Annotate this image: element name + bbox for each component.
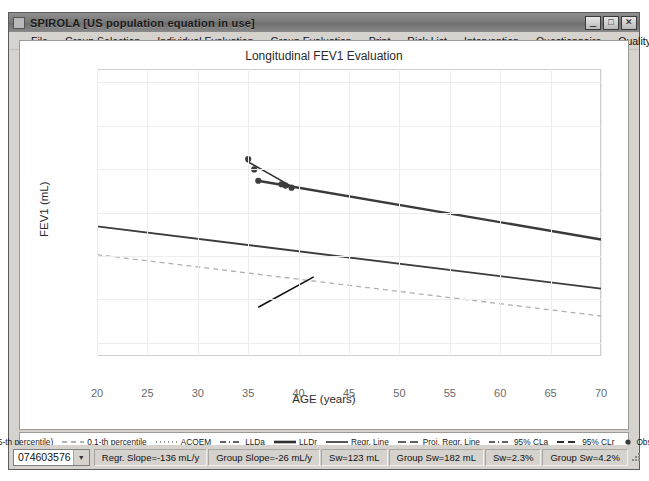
status-bar: 074603576 ▼ Regr. Slope=-136 mL/yGroup S… bbox=[9, 445, 639, 469]
x-tick-label: 65 bbox=[544, 387, 556, 399]
window-title: SPIROLA [US population equation in use] bbox=[30, 17, 255, 29]
maximize-icon: □ bbox=[604, 17, 618, 29]
title-bar[interactable]: SPIROLA [US population equation in use] … bbox=[9, 13, 639, 32]
observed-data-point bbox=[288, 185, 294, 191]
gridline-horizontal bbox=[97, 343, 601, 344]
chart-panel: Longitudinal FEV1 Evaluation FEV1 (mL) A… bbox=[19, 40, 629, 430]
x-tick-label: 70 bbox=[595, 387, 607, 399]
subject-id-combobox[interactable]: 074603576 ▼ bbox=[13, 449, 90, 466]
status-cell: Group Sw=182 mL bbox=[389, 449, 484, 466]
status-cell: Regr. Slope=-136 mL/y bbox=[94, 449, 207, 466]
x-tick-label: 55 bbox=[444, 387, 456, 399]
resize-grip[interactable] bbox=[629, 450, 635, 464]
chart-title: Longitudinal FEV1 Evaluation bbox=[20, 49, 628, 63]
grip-dot bbox=[635, 456, 637, 458]
subject-id-value: 074603576 bbox=[14, 451, 73, 463]
gridline-horizontal bbox=[97, 169, 601, 170]
gridline-vertical bbox=[601, 69, 602, 356]
x-tick-label: 35 bbox=[242, 387, 254, 399]
y-axis-label: FEV1 (mL) bbox=[38, 181, 50, 237]
gridline-horizontal bbox=[97, 299, 601, 300]
x-tick-label: 25 bbox=[141, 387, 153, 399]
status-cells: Regr. Slope=-136 mL/yGroup Slope=-26 mL/… bbox=[94, 449, 629, 466]
gridline-horizontal bbox=[97, 126, 601, 127]
observed-data-point bbox=[282, 182, 288, 188]
minimize-icon: _ bbox=[586, 17, 600, 29]
x-axis-label: AGE (years) bbox=[20, 393, 628, 405]
app-icon bbox=[13, 17, 25, 29]
x-tick-label: 50 bbox=[393, 387, 405, 399]
status-cell: Sw=2.3% bbox=[485, 449, 541, 466]
application-window: SPIROLA [US population equation in use] … bbox=[8, 12, 640, 470]
observed-data-point bbox=[255, 178, 261, 184]
x-tick-label: 60 bbox=[494, 387, 506, 399]
gridline-horizontal bbox=[97, 256, 601, 257]
close-button[interactable]: ✕ bbox=[621, 16, 637, 30]
gridline-horizontal bbox=[97, 213, 601, 214]
chevron-down-icon[interactable]: ▼ bbox=[73, 450, 89, 465]
minimize-button[interactable]: _ bbox=[585, 16, 601, 30]
status-cell: Sw=123 mL bbox=[321, 449, 387, 466]
status-cell: Group Slope=-26 mL/y bbox=[208, 449, 320, 466]
x-tick-label: 30 bbox=[192, 387, 204, 399]
x-tick-label: 45 bbox=[343, 387, 355, 399]
series-line bbox=[258, 277, 313, 307]
grip-dot bbox=[635, 459, 637, 461]
grip-dot bbox=[638, 453, 640, 455]
maximize-button[interactable]: □ bbox=[603, 16, 619, 30]
gridline-horizontal bbox=[97, 82, 601, 83]
grip-dot bbox=[638, 459, 640, 461]
grip-dot bbox=[638, 456, 640, 458]
window-controls: _ □ ✕ bbox=[585, 16, 637, 30]
grip-dot bbox=[632, 459, 634, 461]
x-tick-label: 40 bbox=[292, 387, 304, 399]
plot-area: 2025303540455055606570100020003000400050… bbox=[97, 69, 601, 356]
close-icon: ✕ bbox=[622, 17, 636, 29]
x-tick-label: 20 bbox=[91, 387, 103, 399]
status-cell: Group Sw=4.2% bbox=[542, 449, 627, 466]
